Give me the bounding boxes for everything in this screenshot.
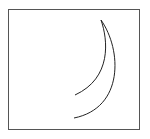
diagram-canvas [0, 0, 150, 139]
crescent-outer-curve [74, 20, 115, 118]
frame-border [9, 10, 140, 130]
crescent-inner-curve [75, 20, 106, 95]
